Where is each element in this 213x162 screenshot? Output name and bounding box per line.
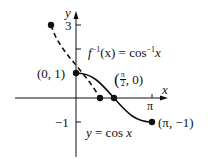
cos-label-x: x xyxy=(126,125,132,140)
arccos-label-sup2: −1 xyxy=(146,45,155,54)
point-label-pi-m1: (π, −1) xyxy=(158,116,194,129)
arccos-label: f−1(x) = cos−1x xyxy=(88,46,161,59)
tick-label-3: 3 xyxy=(65,19,72,32)
arccos-label-sup: −1 xyxy=(92,45,101,54)
arccos-label-x: x xyxy=(155,45,161,60)
x-axis-label: x xyxy=(162,83,168,96)
cos-label-eq: = cos xyxy=(92,125,126,140)
y-axis xyxy=(74,11,82,157)
point-label-0-1: (0, 1) xyxy=(37,67,65,80)
point-halfpi-0 xyxy=(111,95,117,101)
cos-label: y = cos x xyxy=(86,126,132,139)
arccos-label-eq: (x) = cos xyxy=(100,45,146,60)
point-neg1-pi xyxy=(48,22,54,28)
x-axis xyxy=(15,94,168,101)
paren-rest: , 0) xyxy=(126,72,143,87)
point-0-1 xyxy=(73,70,79,76)
tick-label-pi: π xyxy=(147,100,153,112)
point-pi-neg1 xyxy=(149,119,155,125)
tick-label-m1: −1 xyxy=(55,116,69,129)
point-label-halfpi-0: (π2, 0) xyxy=(114,71,143,88)
y-axis-arrow-icon xyxy=(74,11,79,19)
point-1-0 xyxy=(97,95,103,101)
